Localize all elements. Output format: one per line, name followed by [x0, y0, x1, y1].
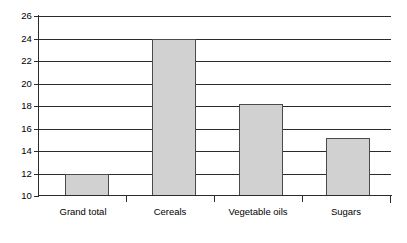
y-tick-16: [34, 129, 39, 130]
x-axis-line: [38, 195, 392, 196]
y-tick-label-16: 16: [2, 124, 32, 134]
gridline-26: [39, 16, 391, 17]
x-tick-sep-1: [126, 196, 127, 202]
y-tick-label-24: 24: [2, 34, 32, 44]
y-tick-label-18: 18: [2, 101, 32, 111]
y-tick-label-12: 12: [2, 169, 32, 179]
bar-vegetable-oils: [239, 104, 283, 196]
gridline-22: [39, 61, 391, 62]
y-tick-label-22: 22: [2, 56, 32, 66]
y-tick-22: [34, 61, 39, 62]
x-label-grand-total: Grand total: [39, 207, 127, 217]
x-label-vegetable-oils: Vegetable oils: [214, 207, 302, 217]
gridline-16: [39, 129, 391, 130]
x-label-sugars: Sugars: [302, 207, 390, 217]
bar-sugars: [326, 138, 370, 197]
gridline-20: [39, 84, 391, 85]
x-tick-sep-2: [214, 196, 215, 202]
y-tick-18: [34, 106, 39, 107]
bar-cereals: [152, 39, 196, 197]
gridline-24: [39, 39, 391, 40]
bar-grand-total: [65, 174, 109, 197]
x-tick-sep-3: [302, 196, 303, 202]
plot-area: [39, 16, 391, 196]
x-label-cereals: Cereals: [126, 207, 214, 217]
y-tick-24: [34, 39, 39, 40]
y-tick-26: [34, 16, 39, 17]
bar-chart: 26 24 22 20 18 16 14 12 10 Grand total C…: [0, 0, 407, 243]
y-tick-14: [34, 151, 39, 152]
x-axis-end-tick: [390, 196, 391, 203]
y-tick-label-10: 10: [2, 191, 32, 201]
y-tick-label-26: 26: [2, 11, 32, 21]
gridline-18: [39, 106, 391, 107]
y-tick-label-20: 20: [2, 79, 32, 89]
y-tick-label-14: 14: [2, 146, 32, 156]
y-tick-10: [34, 196, 39, 197]
y-tick-20: [34, 84, 39, 85]
y-tick-12: [34, 174, 39, 175]
